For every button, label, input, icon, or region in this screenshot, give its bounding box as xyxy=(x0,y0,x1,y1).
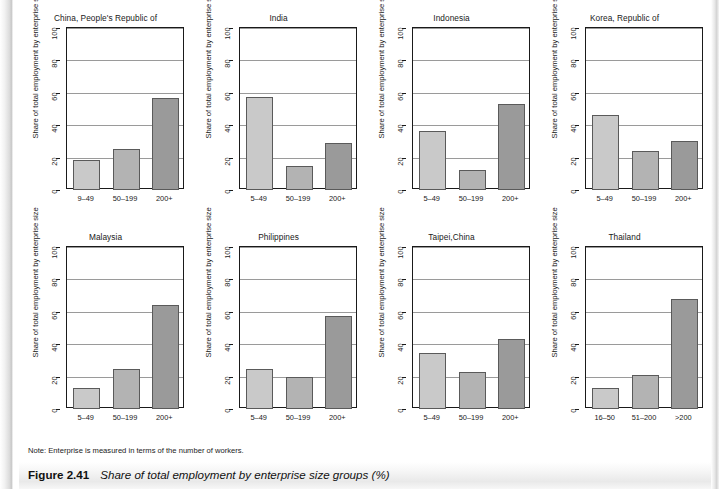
bar xyxy=(113,369,140,409)
plot-frame: 020406080100 xyxy=(412,246,530,408)
x-tick-label: 5–49 xyxy=(423,194,439,203)
x-tick-label: 200+ xyxy=(329,194,346,203)
panel-title: Philippines xyxy=(192,232,365,242)
plot-frame: 020406080100 xyxy=(239,27,357,189)
bar-series xyxy=(67,247,185,409)
plot-area: 02040608010016–5051–200>200 xyxy=(585,246,703,408)
y-tick-label: 60 xyxy=(396,311,405,319)
y-tick-label: 0 xyxy=(569,190,578,194)
bar xyxy=(286,377,313,409)
panel-title: Korea, Republic of xyxy=(538,13,711,23)
y-tick-label: 0 xyxy=(50,190,59,194)
bar xyxy=(592,115,619,190)
x-axis-labels: 5–4950–199200+ xyxy=(585,191,703,205)
bar-series xyxy=(413,247,531,409)
x-tick-label: 5–49 xyxy=(77,413,93,422)
y-tick-label: 60 xyxy=(569,311,578,319)
y-tick-label: 80 xyxy=(396,60,405,68)
y-tick-label: 40 xyxy=(569,344,578,352)
bar xyxy=(498,339,525,409)
bar xyxy=(73,160,100,190)
y-tick-label: 60 xyxy=(569,92,578,100)
chart-panel: China, People's Republic ofShare of tota… xyxy=(19,6,192,225)
figure-caption: Figure 2.41Share of total employment by … xyxy=(28,468,390,481)
chart-panel: Korea, Republic ofShare of total employm… xyxy=(538,6,711,225)
y-tick-label: 100 xyxy=(223,28,232,40)
y-tick-label: 40 xyxy=(223,344,232,352)
y-axis-title: Share of total employment by enterprise … xyxy=(377,0,386,139)
panel-title: China, People's Republic of xyxy=(19,13,192,23)
bar xyxy=(459,372,486,409)
x-tick-label: 5–49 xyxy=(250,413,266,422)
y-tick-label: 20 xyxy=(396,157,405,165)
x-tick-label: >200 xyxy=(675,413,692,422)
y-tick-label: 100 xyxy=(50,28,59,40)
figure-caption-label: Figure 2.41 xyxy=(28,468,89,481)
page-edge-right xyxy=(711,0,719,489)
bar xyxy=(632,151,659,190)
x-tick-label: 50–199 xyxy=(286,413,311,422)
bar xyxy=(459,170,486,190)
bar xyxy=(152,98,179,190)
x-axis-labels: 9–4950–199200+ xyxy=(66,191,184,205)
plot-frame: 020406080100 xyxy=(585,246,703,408)
figure-area: China, People's Republic ofShare of tota… xyxy=(19,0,711,489)
panel-title: Taipei,China xyxy=(365,232,538,242)
x-tick-label: 200+ xyxy=(156,194,173,203)
y-tick-label: 100 xyxy=(396,247,405,259)
y-axis-title: Share of total employment by enterprise … xyxy=(204,0,213,139)
x-tick-label: 9–49 xyxy=(77,194,93,203)
y-tick-label: 80 xyxy=(50,279,59,287)
y-tick-label: 100 xyxy=(569,28,578,40)
bar xyxy=(592,388,619,409)
y-tick-label: 40 xyxy=(50,344,59,352)
x-tick-label: 200+ xyxy=(329,413,346,422)
bar-series xyxy=(413,28,531,190)
bar xyxy=(73,388,100,409)
x-tick-label: 51–200 xyxy=(632,413,657,422)
x-axis-labels: 5–4950–199200+ xyxy=(66,410,184,424)
plot-frame: 020406080100 xyxy=(412,27,530,189)
x-tick-label: 5–49 xyxy=(596,194,612,203)
y-tick-label: 0 xyxy=(223,190,232,194)
y-tick-label: 0 xyxy=(396,190,405,194)
bar-series xyxy=(67,28,185,190)
plot-area: 0204060801005–4950–199200+ xyxy=(66,246,184,408)
plot-area: 0204060801005–4950–199200+ xyxy=(412,246,530,408)
y-tick-label: 40 xyxy=(396,344,405,352)
chart-panel: IndiaShare of total employment by enterp… xyxy=(192,6,365,225)
panel-title: Thailand xyxy=(538,232,711,242)
y-tick-label: 0 xyxy=(223,409,232,413)
y-axis-title: Share of total employment by enterprise … xyxy=(31,0,40,139)
y-axis-title: Share of total employment by enterprise … xyxy=(204,218,213,358)
bar-series xyxy=(240,28,358,190)
bar xyxy=(113,149,140,190)
chart-panel: Taipei,ChinaShare of total employment by… xyxy=(365,225,538,444)
plot-area: 0204060801005–4950–199200+ xyxy=(412,27,530,189)
figure-note: Note: Enterprise is measured in terms of… xyxy=(28,446,244,455)
y-tick-label: 80 xyxy=(50,60,59,68)
y-tick-label: 80 xyxy=(396,279,405,287)
y-tick-label: 60 xyxy=(50,311,59,319)
y-tick-label: 80 xyxy=(223,279,232,287)
y-tick-label: 100 xyxy=(223,247,232,259)
y-tick-label: 20 xyxy=(569,376,578,384)
panel-title: India xyxy=(192,13,365,23)
figure-caption-text: Share of total employment by enterprise … xyxy=(100,468,389,481)
y-tick-label: 40 xyxy=(569,125,578,133)
y-tick-label: 0 xyxy=(569,409,578,413)
x-tick-label: 200+ xyxy=(675,194,692,203)
plot-area: 0204060801005–4950–199200+ xyxy=(239,246,357,408)
y-tick-label: 40 xyxy=(396,125,405,133)
y-tick-label: 20 xyxy=(396,376,405,384)
bar-series xyxy=(586,28,704,190)
plot-area: 0204060801005–4950–199200+ xyxy=(585,27,703,189)
plot-frame: 020406080100 xyxy=(66,246,184,408)
y-tick-label: 100 xyxy=(50,247,59,259)
x-axis-labels: 5–4950–199200+ xyxy=(412,410,530,424)
bar xyxy=(152,305,179,409)
x-tick-label: 50–199 xyxy=(459,413,484,422)
y-axis-title: Share of total employment by enterprise … xyxy=(550,218,559,358)
x-tick-label: 5–49 xyxy=(250,194,266,203)
bar xyxy=(286,166,313,190)
